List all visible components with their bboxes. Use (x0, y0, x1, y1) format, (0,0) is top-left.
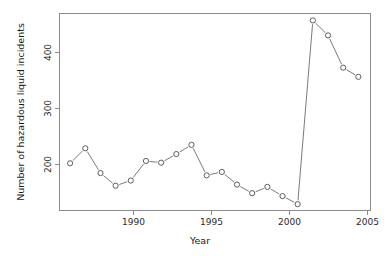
x-tick-label-2000: 2000 (278, 217, 301, 227)
x-tick-label-1990: 1990 (122, 217, 145, 227)
y-tick-label-200: 200 (43, 156, 53, 173)
y-tick-label-400: 400 (43, 44, 53, 61)
y-tick-label-300: 300 (43, 100, 53, 117)
y-axis-title: Number of hazardous liquid incidents (15, 23, 26, 201)
chart-container: 400 300 200 1990 1995 2000 2005 Year Num… (0, 0, 390, 256)
x-axis-title: Year (189, 235, 210, 246)
line-chart: 400 300 200 1990 1995 2000 2005 Year Num… (0, 0, 390, 256)
chart-background (0, 0, 390, 256)
x-tick-label-1995: 1995 (200, 217, 223, 227)
x-tick-label-2005: 2005 (356, 217, 379, 227)
